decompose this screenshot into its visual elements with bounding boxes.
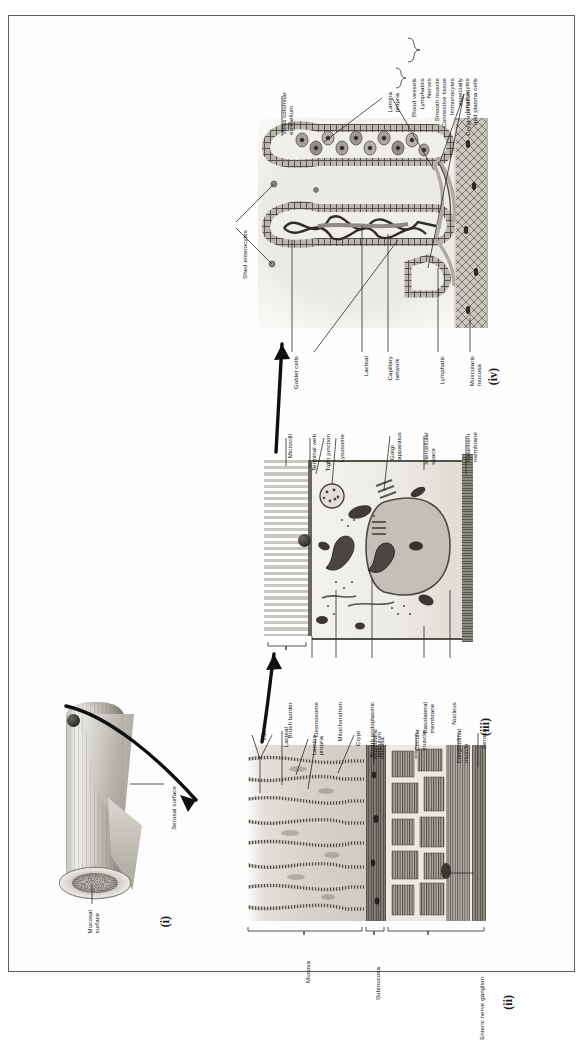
label-basement-membrane: Basement membrane <box>464 432 479 462</box>
panel-iii-leaders <box>264 450 480 646</box>
label-muscularis-mucosa-iv: Muscularis mucosa <box>468 356 483 386</box>
label-brush-border: Brush border <box>286 702 293 738</box>
lamina-propria-content-item: Connective tissue <box>440 78 447 128</box>
label-intercellular-space: Intercellular space <box>422 432 437 465</box>
label-tight-junction: Tight junction <box>324 434 331 471</box>
label-lamina-propria-ii: Lamina propria <box>310 735 325 756</box>
panel-iv-villus-closeup: Villus columnar epithelium Lamina propri… <box>258 118 488 328</box>
label-villus-columnar-epithelium: Villus columnar epithelium <box>280 92 295 135</box>
label-crypt: Crypt <box>354 731 361 746</box>
label-basolateral-membrane: Basolateral membrane <box>421 702 436 734</box>
lamina-propria-content-item: Lymphatics <box>418 78 425 110</box>
panel-marker-iii: (iii) <box>478 718 493 736</box>
label-shed-enterocytes: Shed enterocytes <box>241 230 248 279</box>
label-lacteal-iv: Lacteal <box>362 356 369 376</box>
label-lymphatic: Lymphatic <box>438 356 445 384</box>
panel-marker-iv: (iv) <box>486 368 501 385</box>
label-desmosome: Desmosome <box>312 702 319 737</box>
lamina-propria-content-item: Blood vessels <box>410 78 417 117</box>
lamina-propria-content-item: and plasma cells <box>471 78 478 125</box>
brace-label-submucosa: Submucosa <box>374 967 381 1000</box>
panel-iii-enterocyte: Microvilli Terminal web Tight junction L… <box>264 450 480 646</box>
label-villi: Villi <box>260 731 267 741</box>
panel-marker-ii: (ii) <box>501 995 516 1010</box>
label-lysosome: Lysosome <box>338 434 345 462</box>
label-microvilli: Microvilli <box>286 434 293 458</box>
label-capillary-network: Capillary network <box>386 356 401 381</box>
lamina-propria-content-item: Nerves <box>425 78 432 98</box>
panel-iv-leaders <box>258 118 488 328</box>
label-nucleus: Nucleus <box>450 702 457 725</box>
panel-ii-wall-layers: Lacteal Villi Lamina propria Crypt Muscu… <box>246 745 506 921</box>
label-terminal-web: Terminal web <box>310 434 317 471</box>
label-lamina-propria-iv: Lamina propria <box>386 92 401 113</box>
label-golgi-apparatus: Golgi apparatus <box>388 432 403 460</box>
lamina-propria-content-item: lymphocytes <box>463 78 470 113</box>
panel-ii-leaders <box>246 745 506 921</box>
label-rough-endoplasmic-reticulum: Rough endoplasmic reticulum <box>368 702 383 758</box>
lamina-propria-content-item: Immunocytes <box>448 78 455 115</box>
label-enteric-nerve-ganglion: Enteric nerve ganglion <box>478 977 485 1040</box>
label-mitochondrion: Mitochondrion <box>336 702 343 742</box>
lamina-propria-content-item: especially <box>456 78 463 106</box>
brace-label-mucosa: Mucosa <box>304 961 311 983</box>
label-longitudinal-muscle: Longitudinal muscle <box>455 729 470 763</box>
label-goblet-cells: Goblet cells <box>292 356 299 389</box>
